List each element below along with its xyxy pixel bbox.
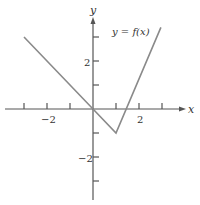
y-axis-arrow-icon	[91, 17, 96, 24]
x-axis-label: x	[188, 103, 195, 116]
function-label: y = f(x)	[111, 26, 150, 37]
x-axis	[5, 103, 186, 112]
x-axis-arrow-icon	[179, 107, 186, 112]
y-tick-label-neg2: −2	[78, 153, 93, 164]
function-graph: x y y = f(x) −2 2 2 −2	[0, 0, 200, 205]
x-tick-label-neg2: −2	[41, 114, 56, 125]
y-tick-label-2: 2	[84, 57, 90, 68]
y-axis-label: y	[89, 4, 97, 17]
x-tick-label-2: 2	[137, 114, 143, 125]
